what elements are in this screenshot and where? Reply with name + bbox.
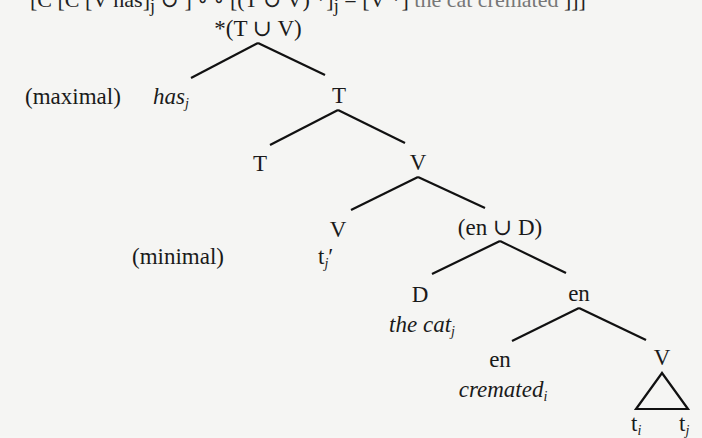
edge-root-has xyxy=(191,43,258,78)
node-label: (en ∪ D) xyxy=(458,215,542,240)
node-T-upper: T xyxy=(332,84,346,107)
edge-en-en xyxy=(512,308,579,341)
subscript: j xyxy=(185,96,189,111)
word-the-cat: the catj xyxy=(389,313,455,336)
node-D: D xyxy=(412,283,429,306)
trace-ti: ti xyxy=(631,412,641,435)
node-V-upper: V xyxy=(410,151,427,174)
annotation-minimal: (minimal) xyxy=(132,245,224,268)
edge-V-enD xyxy=(418,177,485,208)
node-label: T xyxy=(332,83,346,108)
node-V-minimal: V xyxy=(330,218,347,241)
subscript: j xyxy=(451,324,455,339)
word: has xyxy=(153,84,185,109)
node-V-lower: V xyxy=(654,346,671,369)
node-label: T xyxy=(253,151,267,176)
edge-enD-en xyxy=(500,241,566,273)
triangle-icon xyxy=(636,373,688,409)
node-en-upper: en xyxy=(568,282,590,305)
edge-V-V xyxy=(351,177,418,210)
prime: ′ xyxy=(328,244,333,269)
node-label: V xyxy=(654,345,671,370)
node-en-lower: en xyxy=(489,348,511,371)
annotation-maximal: (maximal) xyxy=(25,85,121,108)
word: the cat xyxy=(389,312,451,337)
node-T-lower: T xyxy=(253,152,267,175)
subscript: i xyxy=(637,423,641,438)
edge-root-T xyxy=(258,43,325,75)
word-cremated: crematedi xyxy=(459,378,548,401)
node-label: en xyxy=(568,281,590,306)
edge-T-V xyxy=(338,110,405,143)
edge-enD-D xyxy=(432,241,500,274)
subscript: i xyxy=(543,389,547,404)
node-label: D xyxy=(412,282,429,307)
node-label: V xyxy=(330,217,347,242)
node-has: hasj xyxy=(153,85,189,108)
node-root: *(T ∪ V) xyxy=(214,17,301,40)
node-label: en xyxy=(489,347,511,372)
edge-T-T xyxy=(270,110,338,145)
subscript: j xyxy=(685,423,689,438)
trace-tj: tj xyxy=(679,412,689,435)
node-en-union-D: (en ∪ D) xyxy=(458,216,542,239)
word: cremated xyxy=(459,377,544,402)
edge-en-V xyxy=(579,308,646,340)
node-label: *(T ∪ V) xyxy=(214,16,301,41)
trace-tj-prime: tj′ xyxy=(318,245,333,268)
node-label: V xyxy=(410,150,427,175)
